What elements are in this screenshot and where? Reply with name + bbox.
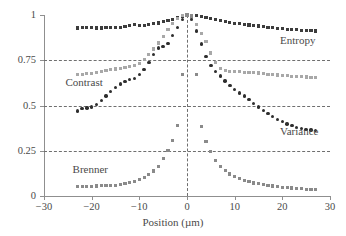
x-axis-title: Position (µm) <box>0 216 346 228</box>
data-point-entropy <box>114 26 117 29</box>
data-point-entropy <box>262 25 265 28</box>
data-point-brenner <box>228 172 231 175</box>
data-point-variance <box>252 102 255 105</box>
data-point-entropy <box>200 15 203 18</box>
data-point-contrast <box>195 23 198 26</box>
x-tick-label: 10 <box>215 202 255 213</box>
data-point-contrast <box>152 47 155 50</box>
data-point-brenner <box>85 185 88 188</box>
data-point-brenner <box>171 139 174 142</box>
data-point-contrast <box>309 76 312 79</box>
data-point-brenner <box>305 188 308 191</box>
data-point-contrast <box>252 71 255 74</box>
data-point-variance <box>166 42 169 45</box>
data-point-variance <box>171 34 174 37</box>
data-point-brenner <box>81 185 84 188</box>
data-point-variance <box>109 90 112 93</box>
x-tick-mark <box>282 196 283 200</box>
data-point-entropy <box>104 26 107 29</box>
data-point-contrast <box>109 68 112 71</box>
x-tick-label: −30 <box>24 202 64 213</box>
data-point-variance <box>128 78 131 81</box>
data-point-brenner <box>166 149 169 152</box>
x-tick-mark <box>139 196 140 200</box>
data-point-entropy <box>157 21 160 24</box>
data-point-entropy <box>295 28 298 31</box>
data-point-variance <box>271 115 274 118</box>
data-point-contrast <box>200 32 203 35</box>
data-point-contrast <box>228 70 231 73</box>
data-point-contrast <box>90 72 93 75</box>
data-point-entropy <box>109 26 112 29</box>
data-point-brenner <box>104 184 107 187</box>
data-point-contrast <box>271 73 274 76</box>
scatter-chart-figure: EntropyContrastVarianceBrenner 00.250.50… <box>0 0 346 236</box>
data-point-variance <box>100 99 103 102</box>
data-point-entropy <box>204 16 207 19</box>
x-tick-label: 0 <box>167 202 207 213</box>
data-point-contrast <box>119 67 122 70</box>
y-tick-label: 0.75 <box>2 55 36 66</box>
data-point-entropy <box>271 26 274 29</box>
data-point-entropy <box>152 22 155 25</box>
data-point-entropy <box>76 26 79 29</box>
data-point-entropy <box>95 26 98 29</box>
data-point-brenner <box>128 181 131 184</box>
data-point-entropy <box>257 24 260 27</box>
data-point-brenner <box>247 180 250 183</box>
data-point-contrast <box>157 41 160 44</box>
data-point-brenner <box>181 73 184 76</box>
data-point-brenner <box>100 184 103 187</box>
data-point-brenner <box>257 182 260 185</box>
data-point-brenner <box>252 181 255 184</box>
data-point-variance <box>204 55 207 58</box>
data-point-contrast <box>133 64 136 67</box>
data-point-contrast <box>104 69 107 72</box>
data-point-variance <box>219 74 222 77</box>
data-point-entropy <box>100 26 103 29</box>
data-point-variance <box>281 120 284 123</box>
data-point-brenner <box>262 183 265 186</box>
data-point-variance <box>209 64 212 67</box>
data-point-brenner <box>185 13 188 16</box>
data-point-contrast <box>238 70 241 73</box>
data-point-variance <box>200 42 203 45</box>
data-point-brenner <box>233 175 236 178</box>
data-point-brenner <box>157 165 160 168</box>
data-point-entropy <box>128 24 131 27</box>
data-point-contrast <box>143 58 146 61</box>
x-tick-label: 30 <box>310 202 346 213</box>
data-point-entropy <box>266 26 269 29</box>
data-point-variance <box>147 61 150 64</box>
data-point-entropy <box>314 29 317 32</box>
data-point-brenner <box>314 188 317 191</box>
data-point-brenner <box>143 176 146 179</box>
data-point-variance <box>142 68 145 71</box>
y-tick-label: 0 <box>2 191 36 202</box>
data-point-entropy <box>171 18 174 21</box>
data-point-contrast <box>286 74 289 77</box>
x-tick-mark <box>235 196 236 200</box>
data-point-brenner <box>271 184 274 187</box>
data-point-entropy <box>228 21 231 24</box>
data-point-contrast <box>295 75 298 78</box>
data-point-contrast <box>95 71 98 74</box>
data-point-brenner <box>300 187 303 190</box>
data-point-variance <box>133 77 136 80</box>
data-point-contrast <box>257 71 260 74</box>
data-point-entropy <box>276 27 279 30</box>
data-point-entropy <box>286 28 289 31</box>
data-point-contrast <box>123 66 126 69</box>
data-point-variance <box>114 86 117 89</box>
data-point-variance <box>214 70 217 73</box>
data-point-variance <box>80 107 83 110</box>
x-tick-label: −20 <box>72 202 112 213</box>
data-point-variance <box>123 80 126 83</box>
series-label-contrast: Contrast <box>65 76 102 88</box>
data-point-brenner <box>286 186 289 189</box>
data-point-entropy <box>214 18 217 21</box>
data-point-entropy <box>305 29 308 32</box>
data-point-contrast <box>166 28 169 31</box>
y-tick-mark <box>40 106 44 107</box>
data-point-brenner <box>76 185 79 188</box>
